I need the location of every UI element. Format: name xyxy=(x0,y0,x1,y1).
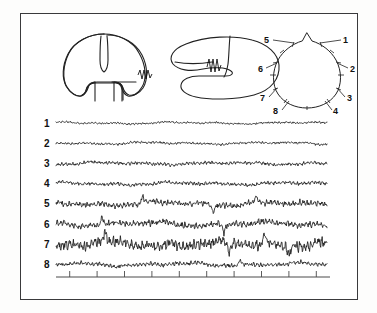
head-electrode-label-5: 5 xyxy=(264,35,269,45)
eeg-trace xyxy=(56,161,327,167)
eeg-channel-label: 8 xyxy=(44,259,50,270)
emg-squiggle-icon xyxy=(207,59,221,72)
head-electrode-label-7: 7 xyxy=(260,93,265,103)
figure-graphics: 1 2 3 4 5 6 7 8 12345678 xyxy=(0,0,377,313)
head-electrode-label-6: 6 xyxy=(258,64,263,74)
eeg-channel-label: 7 xyxy=(44,239,50,250)
head-electrode-label-3: 3 xyxy=(347,93,352,103)
coronal-brain-section xyxy=(63,34,152,101)
eeg-trace xyxy=(56,194,327,213)
time-scale-bar xyxy=(56,271,330,277)
figure-canvas: 1 2 3 4 5 6 7 8 12345678 xyxy=(0,0,377,313)
eeg-channel-label: 4 xyxy=(44,178,50,189)
head-electrode-label-8: 8 xyxy=(273,106,278,116)
electrode-markers xyxy=(270,42,344,110)
head-electrode-map: 1 2 3 4 5 6 7 8 xyxy=(258,33,355,116)
eeg-channel-label: 5 xyxy=(44,198,50,209)
eeg-channel-label: 1 xyxy=(44,118,50,129)
eeg-trace xyxy=(56,216,327,237)
eeg-trace xyxy=(56,180,327,187)
head-electrode-label-4: 4 xyxy=(333,106,338,116)
eeg-channel-label: 6 xyxy=(44,219,50,230)
eeg-trace xyxy=(56,141,327,146)
eeg-trace xyxy=(56,121,327,125)
eeg-trace xyxy=(56,259,327,268)
eeg-trace xyxy=(56,229,327,256)
eeg-channel-label: 2 xyxy=(44,138,50,149)
eeg-trace-stack: 12345678 xyxy=(44,118,327,270)
head-electrode-label-1: 1 xyxy=(343,35,348,45)
head-electrode-label-2: 2 xyxy=(350,64,355,74)
eeg-channel-label: 3 xyxy=(44,158,50,169)
